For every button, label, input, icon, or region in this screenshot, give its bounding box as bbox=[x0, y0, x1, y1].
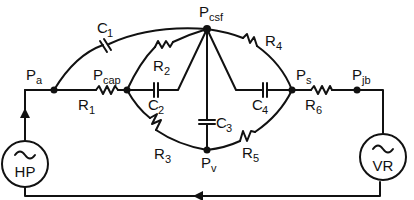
label-r5: R 5 bbox=[242, 144, 259, 164]
label-sub: 2 bbox=[164, 65, 170, 77]
label-main: P bbox=[296, 66, 306, 83]
label-r3: R 3 bbox=[154, 145, 171, 165]
label-r4: R 4 bbox=[265, 32, 282, 52]
label-c1: C 1 bbox=[97, 19, 113, 39]
label-r2: R 2 bbox=[153, 57, 170, 77]
label-sub: 3 bbox=[226, 122, 232, 134]
resistor-r4-icon bbox=[243, 34, 257, 46]
source-hp: HP bbox=[2, 141, 48, 187]
label-c2: C 2 bbox=[148, 96, 164, 116]
label-sub: s bbox=[306, 74, 312, 86]
label-pcsf: P csf bbox=[199, 3, 224, 23]
label-sub: csf bbox=[209, 11, 224, 23]
label-main: P bbox=[26, 66, 36, 83]
wire-pv-r5 bbox=[207, 141, 240, 150]
label-sub: 3 bbox=[165, 153, 171, 165]
source-hp-label: HP bbox=[15, 163, 36, 180]
label-main: P bbox=[93, 66, 103, 83]
label-r6: R 6 bbox=[305, 96, 322, 116]
resistor-r2-icon bbox=[155, 41, 173, 48]
label-main: R bbox=[154, 145, 165, 162]
label-sub: 2 bbox=[158, 104, 164, 116]
label-r1: R 1 bbox=[78, 96, 95, 116]
label-c4: C 4 bbox=[252, 96, 268, 116]
label-main: P bbox=[352, 66, 362, 83]
label-pv: P v bbox=[201, 154, 217, 174]
label-main: P bbox=[199, 3, 209, 20]
label-ps: P s bbox=[296, 66, 312, 86]
label-sub: v bbox=[211, 162, 217, 174]
resistor-r5-icon bbox=[240, 131, 255, 141]
source-vr: VR bbox=[360, 134, 406, 180]
label-main: R bbox=[153, 57, 164, 74]
label-sub: cap bbox=[103, 74, 121, 86]
label-pa: P a bbox=[26, 66, 43, 86]
wire-pcsf-r4 bbox=[207, 29, 243, 38]
label-main: R bbox=[78, 96, 89, 113]
ac-wave-icon bbox=[373, 146, 393, 153]
label-sub: 5 bbox=[253, 152, 259, 164]
resistor-r1-icon bbox=[96, 86, 118, 94]
arrow-up-icon bbox=[20, 108, 30, 118]
label-sub: 4 bbox=[262, 104, 268, 116]
label-sub: jb bbox=[361, 74, 371, 86]
label-pcap: P cap bbox=[93, 66, 121, 86]
label-main: R bbox=[265, 32, 276, 49]
label-c3: C 3 bbox=[216, 114, 232, 134]
resistor-r6-icon bbox=[311, 86, 332, 94]
source-vr-label: VR bbox=[373, 157, 394, 174]
wire-pcap-r3 bbox=[127, 90, 150, 118]
label-sub: 1 bbox=[107, 27, 113, 39]
wire-pjb-vr bbox=[357, 90, 383, 133]
label-sub: 6 bbox=[316, 104, 322, 116]
arrow-left-icon bbox=[193, 191, 203, 200]
wire-pcap-r2 bbox=[127, 47, 155, 90]
label-sub: 4 bbox=[276, 40, 282, 52]
ac-wave-icon bbox=[15, 152, 35, 159]
label-sub: a bbox=[36, 74, 43, 86]
label-main: R bbox=[242, 144, 253, 161]
label-pjb: P jb bbox=[352, 66, 371, 86]
circuit-diagram: HP VR P a P cap P csf P s P jb P v C 1 C… bbox=[0, 0, 414, 200]
label-main: R bbox=[305, 96, 316, 113]
label-sub: 1 bbox=[89, 104, 95, 116]
label-main: P bbox=[201, 154, 211, 171]
resistor-r3-icon bbox=[150, 114, 161, 130]
